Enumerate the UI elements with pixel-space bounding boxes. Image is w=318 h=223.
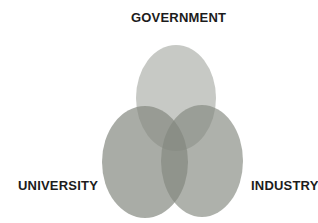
government-label: GOVERNMENT [131, 11, 226, 25]
industry-label: INDUSTRY [251, 179, 318, 193]
university-ellipse [102, 106, 188, 218]
venn-diagram: GOVERNMENT UNIVERSITY INDUSTRY [0, 0, 318, 223]
university-label: UNIVERSITY [18, 179, 98, 193]
